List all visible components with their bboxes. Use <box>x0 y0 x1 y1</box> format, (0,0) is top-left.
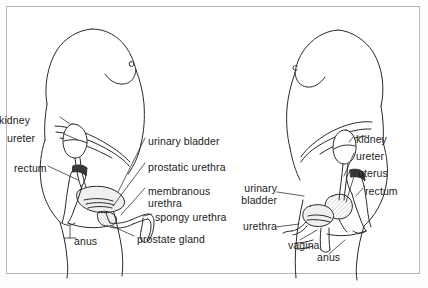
label-female-ureter: ureter <box>356 151 384 163</box>
label-female-kidney: kidney <box>356 134 387 146</box>
female-kidney <box>333 130 356 164</box>
female-urethra <box>283 222 307 235</box>
female-urinary-bladder <box>303 205 334 227</box>
label-male-spongy-urethra: spongy urethra <box>155 212 226 224</box>
male-kidney <box>63 124 87 158</box>
label-female-urinary-bladder: urinary bladder <box>241 183 277 206</box>
label-female-rectum: rectum <box>365 186 398 198</box>
label-male-prostatic-urethra: prostatic urethra <box>148 162 226 174</box>
label-male-prostate-gland: prostate gland <box>137 234 205 246</box>
label-female-urethra: urethra <box>243 221 277 233</box>
label-male-membranous-urethra: membranous urethra <box>148 186 210 209</box>
label-male-anus: anus <box>74 236 97 248</box>
label-female-uterus: uterus <box>358 168 388 180</box>
label-male-kidney: kidney <box>0 115 30 127</box>
label-male-ureter: ureter <box>7 133 35 145</box>
male-urinary-bladder <box>77 186 125 212</box>
label-male-urinary-bladder: urinary bladder <box>148 136 220 148</box>
label-male-rectum: rectum <box>14 163 47 175</box>
label-female-vagina: vagina <box>288 240 320 252</box>
label-female-anus: anus <box>317 252 340 264</box>
